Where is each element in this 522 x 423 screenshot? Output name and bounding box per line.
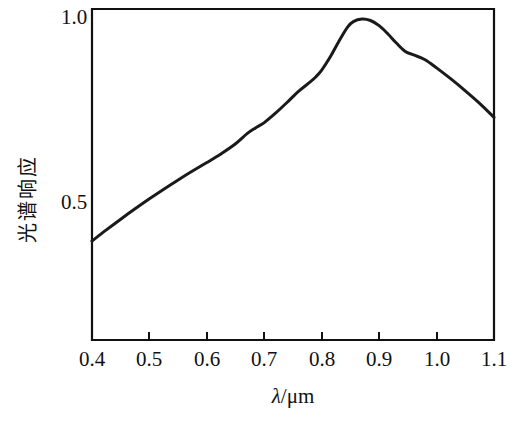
- x-tick-label: 0.7: [251, 347, 277, 371]
- x-tick-label: 1.1: [481, 347, 507, 371]
- chart-figure: 0.4 0.5 0.6 0.7 0.8 0.9 1.0 1.1 0.5 1.0 …: [0, 0, 522, 423]
- x-tick-label: 0.5: [136, 347, 162, 371]
- x-tick-label: 0.9: [366, 347, 392, 371]
- x-tick-label: 1.0: [424, 347, 450, 371]
- y-tick-label: 0.5: [61, 190, 87, 214]
- y-axis-title-char: 谱: [16, 201, 40, 221]
- x-axis-title-symbol: λ: [271, 384, 281, 408]
- x-tick-label: 0.6: [194, 347, 220, 371]
- y-tick-label: 1.0: [61, 5, 87, 29]
- x-axis-title-unit: /μm: [281, 384, 314, 408]
- y-axis-title-char: 光: [16, 223, 40, 243]
- x-tick-label: 0.4: [79, 347, 106, 371]
- x-axis-title: λ/μm: [271, 384, 315, 408]
- spectral-response-chart: 0.4 0.5 0.6 0.7 0.8 0.9 1.0 1.1 0.5 1.0 …: [0, 0, 522, 423]
- y-axis-title-char: 应: [16, 157, 40, 177]
- x-tick-label: 0.8: [309, 347, 335, 371]
- y-axis-title-char: 响: [16, 179, 40, 199]
